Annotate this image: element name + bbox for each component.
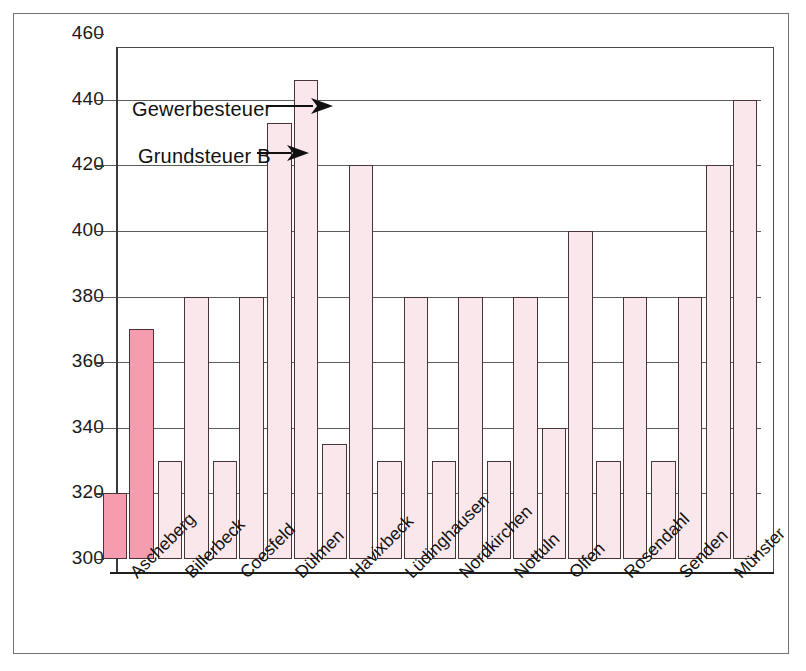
x-axis-label-d-lmen: Dülmen bbox=[291, 568, 306, 583]
bar-olfen-gewerbesteuer bbox=[568, 231, 593, 559]
bar-m-nster-grundsteuer-b bbox=[706, 165, 731, 559]
bar-ascheberg-gewerbesteuer bbox=[129, 329, 154, 559]
bar-d-lmen-grundsteuer-b bbox=[267, 123, 292, 559]
x-axis-label-coesfeld: Coesfeld bbox=[236, 568, 251, 583]
x-axis-label-olfen: Olfen bbox=[565, 568, 580, 583]
y-axis-tick bbox=[95, 100, 104, 101]
y-axis-tick bbox=[95, 559, 104, 560]
y-axis-tick bbox=[95, 165, 104, 166]
annotation-arrow-grundsteuer-b bbox=[257, 141, 311, 165]
x-axis-label-nottuln: Nottuln bbox=[510, 568, 525, 583]
y-axis-tick bbox=[95, 34, 104, 35]
x-axis-label-billerbeck: Billerbeck bbox=[181, 568, 196, 583]
y-axis-tick bbox=[95, 362, 104, 363]
plot-top-border bbox=[116, 47, 774, 48]
gridline bbox=[103, 231, 761, 232]
bar-rosendahl-gewerbesteuer bbox=[623, 297, 648, 560]
x-axis-label-ascheberg: Ascheberg bbox=[126, 568, 141, 583]
x-axis-label-l-dinghausen: Lüdinghausen bbox=[401, 568, 416, 583]
y-axis-tick-label: 340 bbox=[30, 416, 104, 438]
bar-m-nster-gewerbesteuer bbox=[733, 100, 758, 559]
x-axis-line bbox=[110, 572, 774, 574]
y-axis-tick bbox=[95, 428, 104, 429]
y-axis-tick-label: 380 bbox=[30, 285, 104, 307]
y-axis-tick-label: 440 bbox=[30, 88, 104, 110]
y-axis-tick bbox=[95, 297, 104, 298]
y-axis-tick-label: 320 bbox=[30, 481, 104, 503]
figure-frame: 300320340360380400420440460 AschebergBil… bbox=[13, 13, 789, 654]
y-axis-tick-labels: 300320340360380400420440460 bbox=[22, 14, 104, 614]
y-axis-tick-label: 460 bbox=[30, 22, 104, 44]
x-axis-label-m-nster: Münster bbox=[730, 568, 745, 583]
x-axis-label-senden: Senden bbox=[675, 568, 690, 583]
x-axis-label-nordkirchen: Nordkirchen bbox=[455, 568, 470, 583]
bar-ascheberg-grundsteuer-b bbox=[103, 493, 128, 559]
bar-coesfeld-gewerbesteuer bbox=[239, 297, 264, 560]
plot-right-border bbox=[773, 47, 774, 573]
y-axis-tick-label: 400 bbox=[30, 219, 104, 241]
y-axis-tick bbox=[95, 231, 104, 232]
y-axis-tick-label: 300 bbox=[30, 547, 104, 569]
annotation-grundsteuer-b: Grundsteuer B bbox=[138, 145, 271, 168]
bar-havixbeck-gewerbesteuer bbox=[349, 165, 374, 559]
annotation-arrow-gewerbesteuer bbox=[267, 94, 335, 118]
annotation-gewerbesteuer: Gewerbesteuer bbox=[132, 98, 271, 121]
y-axis-tick-label: 360 bbox=[30, 350, 104, 372]
x-axis-label-rosendahl: Rosendahl bbox=[620, 568, 635, 583]
x-axis-label-havixbeck: Havixbeck bbox=[346, 568, 361, 583]
y-axis-tick-label: 420 bbox=[30, 153, 104, 175]
